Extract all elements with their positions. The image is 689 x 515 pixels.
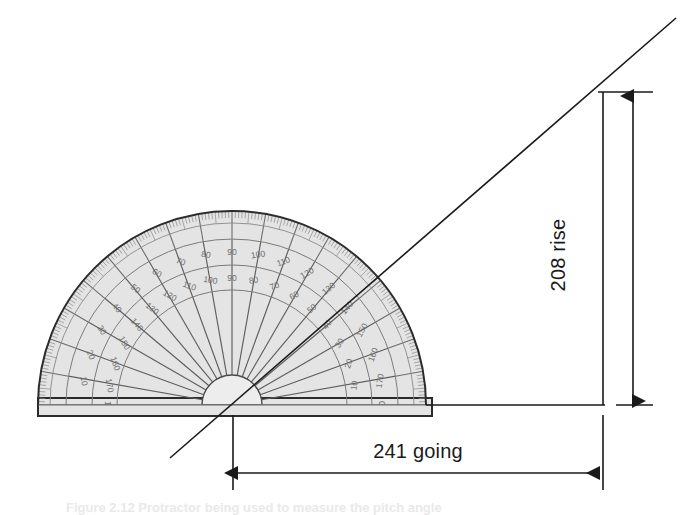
rise-dimension-label: 208 rise <box>547 219 569 292</box>
figure-canvas: 0102030405060708090100110120130140150160… <box>0 0 689 515</box>
going-dimension: 241 going <box>233 415 603 490</box>
protractor: 0102030405060708090100110120130140150160… <box>38 211 432 416</box>
protractor-outer-scale-number: 80 <box>200 249 211 261</box>
figure-caption: Figure 2.12 Protractor being used to mea… <box>66 500 442 515</box>
protractor-inner-scale-number: 90 <box>227 273 237 283</box>
protractor-figure: 0102030405060708090100110120130140150160… <box>0 0 689 515</box>
rise-dimension: 208 rise <box>547 96 633 401</box>
protractor-outer-scale-number: 90 <box>227 247 237 257</box>
protractor-outer-scale-number: 10 <box>79 375 91 386</box>
protractor-inner-scale-number: 10 <box>348 380 360 391</box>
protractor-inner-scale-number: 80 <box>248 274 259 286</box>
going-dimension-label: 241 going <box>373 440 463 462</box>
